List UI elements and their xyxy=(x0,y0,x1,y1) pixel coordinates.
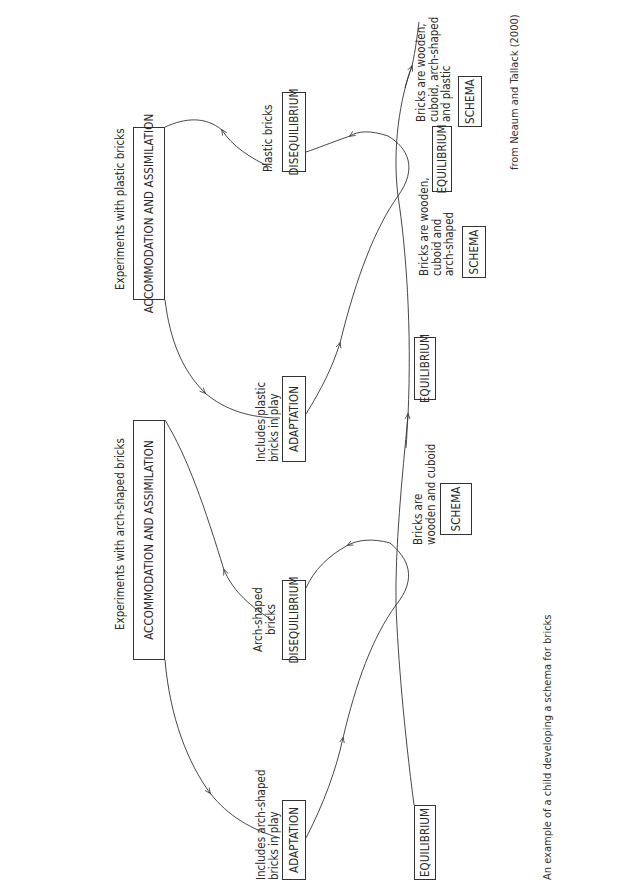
disequilibrium-box-2: DISEQUILIBRIUM xyxy=(282,92,306,172)
cycle1-heading: Experiments with arch-shaped bricks xyxy=(114,438,127,630)
adaptation-box-1: ADAPTATION xyxy=(282,800,306,880)
schema-note-1: Bricks are wooden and cuboid xyxy=(412,444,437,545)
schema-box-2: SCHEMA xyxy=(462,226,486,278)
figure-caption: An example of a child developing a schem… xyxy=(541,615,554,880)
equilibrium-box-1: EQUILIBRIUM xyxy=(414,805,436,880)
equilibrium-box-2: EQUILIBRIUM xyxy=(414,337,436,400)
connector-lines xyxy=(0,0,631,888)
schema-note-3: Bricks are wooden, cuboid, arch-shaped a… xyxy=(415,17,453,122)
adaptation-note-1: Includes arch-shaped bricks in play xyxy=(255,770,280,880)
diagram: Experiments with arch-shaped bricks Expe… xyxy=(0,0,631,888)
source-credit: from Neaum and Tallack (2000) xyxy=(508,14,521,170)
cycle2-heading: Experiments with plastic bricks xyxy=(114,128,127,290)
adaptation-box-2: ADAPTATION xyxy=(282,376,306,462)
disequilibrium-box-1: DISEQUILIBRIUM xyxy=(282,580,306,660)
schema-box-3: SCHEMA xyxy=(458,76,482,127)
accommodation-assimilation-box-2: ACCOMMODATION AND ASSIMILATION xyxy=(133,127,165,300)
disequilibrium-note-2: Plastic bricks xyxy=(262,104,275,172)
adaptation-note-2: Includes plastic bricks in play xyxy=(255,382,280,462)
schema-note-2: Bricks are wooden, cuboid and arch-shape… xyxy=(418,178,456,276)
disequilibrium-note-1: Arch-shaped bricks xyxy=(252,587,277,652)
accommodation-assimilation-box-1: ACCOMMODATION AND ASSIMILATION xyxy=(133,420,165,660)
schema-box-1: SCHEMA xyxy=(440,483,472,535)
